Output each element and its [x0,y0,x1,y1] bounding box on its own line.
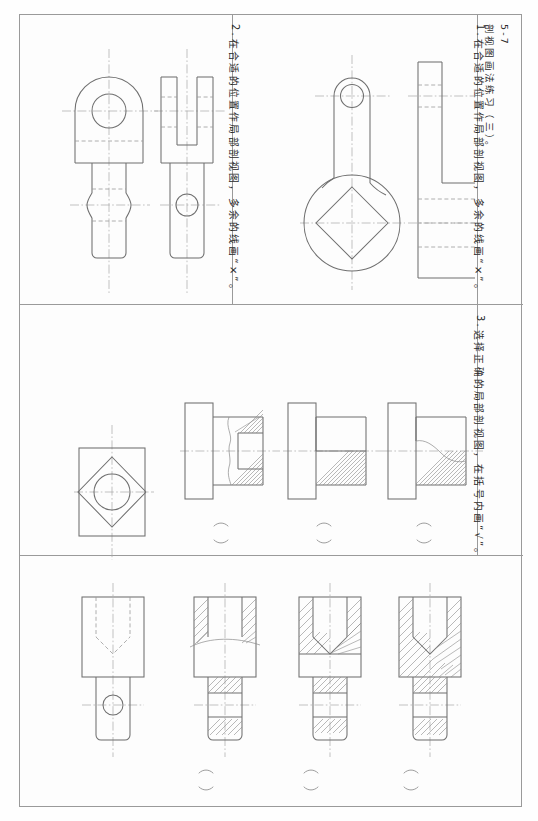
hatch-a-upper [235,410,263,433]
page-frame: 5-7 剖视图画法练习（三）。 1. 在合适的位置作局部剖视图，多余的线画“×”… [19,14,522,807]
item3-row1-given-view [56,63,171,263]
item3-row2-option-c [375,575,485,765]
answer-bracket-row1-b[interactable] [313,520,335,546]
item1-drawing [260,35,475,300]
item3-row1-option-a [180,393,280,513]
item3-row1-option-b [283,393,383,513]
answer-bracket-row2-c[interactable] [400,767,422,793]
item3-row2-option-a [170,575,280,765]
answer-bracket-row2-a[interactable] [195,767,217,793]
item-2-number: 2. [230,24,241,38]
answer-bracket-row1-c[interactable] [413,520,435,546]
item3-row1-option-c [383,393,483,513]
item-1-number: 1. [475,24,486,38]
answer-bracket-row2-b[interactable] [300,767,322,793]
hatch-r2c-right [431,599,461,677]
hatch-r2a-left [194,599,208,644]
worksheet-page: 5-7 剖视图画法练习（三）。 1. 在合适的位置作局部剖视图，多余的线画“×”… [0,0,538,821]
item3-row2-option-b [275,575,385,765]
hatch-r2c-left [399,599,437,677]
hatch-r2b-left [299,599,330,654]
item-3-number: 3. [475,315,486,329]
item3-row2-given-view [58,575,168,765]
hatch-r2b-right [331,599,361,654]
hatch-r2a-right [242,599,256,643]
divider-horizontal-1 [20,304,523,305]
hatch-c-lower [416,451,466,485]
sheet-title-code: 5-7 [499,24,510,46]
hatch-b-lower [316,451,366,485]
answer-bracket-row1-a[interactable] [210,520,232,546]
